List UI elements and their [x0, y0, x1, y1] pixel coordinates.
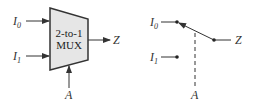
mux-input1-label: I1	[12, 49, 21, 65]
switch-diagram: I0 I1 Z A	[149, 15, 242, 102]
mux-title-line2: MUX	[56, 39, 82, 51]
switch-input1-label: I1	[149, 50, 158, 66]
switch-input0-label: I0	[149, 15, 158, 31]
switch-arm	[179, 23, 214, 40]
mux-input0-label: I0	[12, 14, 21, 30]
switch-input0-contact	[175, 20, 179, 24]
switch-output-label: Z	[235, 33, 242, 47]
mux-select-label: A	[64, 88, 73, 102]
switch-select-label: A	[190, 88, 199, 102]
mux-output-label: Z	[113, 33, 120, 47]
diagram-canvas: 2-to-1 MUX I0 I1 Z A I0 I1 Z A	[0, 0, 255, 102]
switch-input1-contact	[175, 55, 179, 59]
mux-block-diagram: 2-to-1 MUX I0 I1 Z A	[12, 8, 120, 102]
mux-title-line1: 2-to-1	[56, 27, 83, 39]
